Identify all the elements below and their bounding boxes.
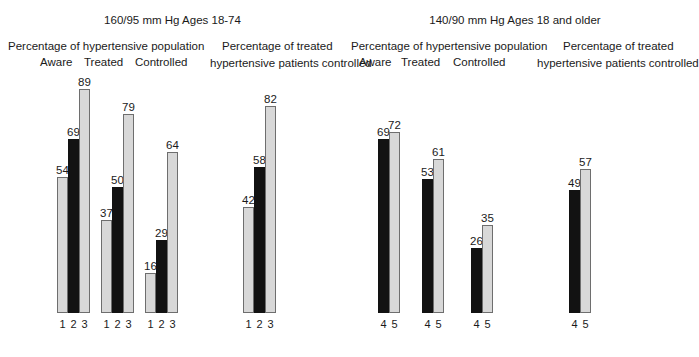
bar-tick-label: 3 — [265, 318, 276, 330]
bar-tick-label: 3 — [167, 318, 178, 330]
bar-value-label: 57 — [574, 156, 598, 168]
bar-tick-label: 1 — [145, 318, 156, 330]
bar-tick-label: 1 — [57, 318, 68, 330]
bar-tick-label: 5 — [389, 318, 400, 330]
bar — [112, 187, 123, 313]
bar-tick-label: 5 — [482, 318, 493, 330]
bar-tick-label: 4 — [422, 318, 433, 330]
bar — [123, 114, 134, 313]
bar-tick-label: 3 — [123, 318, 134, 330]
bar — [145, 273, 156, 313]
bar-tick-label: 2 — [112, 318, 123, 330]
bar-tick-label: 1 — [101, 318, 112, 330]
bar-value-label: 72 — [383, 119, 407, 131]
bar — [68, 139, 79, 313]
bar-tick-label: 4 — [378, 318, 389, 330]
plot-area-left: 54 1 69 2 89 3 37 1 50 — [0, 0, 345, 357]
bar — [254, 167, 265, 313]
bar — [243, 207, 254, 313]
bar — [156, 240, 167, 313]
bar — [79, 89, 90, 313]
bar — [167, 152, 178, 313]
bar-value-label: 35 — [476, 212, 500, 224]
plot-area-right: 69 4 72 5 53 4 61 5 — [345, 0, 685, 357]
bar-tick-label: 1 — [243, 318, 254, 330]
bar-tick-label: 2 — [254, 318, 265, 330]
bar-value-label: 79 — [117, 101, 141, 113]
bar — [101, 220, 112, 313]
bar-tick-label: 4 — [569, 318, 580, 330]
bar — [433, 159, 444, 313]
panel-140-90: 140/90 mm Hg Ages 18 and older Percentag… — [345, 0, 685, 357]
bar-tick-label: 2 — [68, 318, 79, 330]
bar — [389, 132, 400, 313]
bar-tick-label: 2 — [156, 318, 167, 330]
bar — [471, 248, 482, 313]
bar — [580, 169, 591, 313]
bar — [57, 177, 68, 313]
bar-tick-label: 5 — [433, 318, 444, 330]
bar — [422, 179, 433, 313]
bar-tick-label: 5 — [580, 318, 591, 330]
bar — [482, 225, 493, 313]
bar-value-label: 64 — [161, 139, 185, 151]
bar — [378, 139, 389, 313]
bar-tick-label: 4 — [471, 318, 482, 330]
bar-value-label: 82 — [259, 93, 283, 105]
bar-value-label: 89 — [73, 76, 97, 88]
bar — [265, 106, 276, 313]
panel-160-95: 160/95 mm Hg Ages 18-74 Percentage of hy… — [0, 0, 345, 357]
bar-tick-label: 3 — [79, 318, 90, 330]
bar-value-label: 61 — [427, 146, 451, 158]
bar — [569, 190, 580, 313]
